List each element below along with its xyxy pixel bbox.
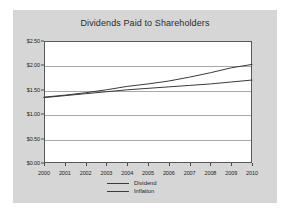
x-axis-tick [231, 163, 232, 166]
x-axis-label: 2006 [163, 170, 175, 176]
legend-item[interactable]: Inflation [107, 188, 183, 194]
x-axis-tick [169, 163, 170, 166]
x-axis-label: 2004 [121, 170, 133, 176]
x-axis-tick [252, 163, 253, 166]
y-axis-label: $0.50 [27, 136, 40, 142]
x-axis-label: 2009 [225, 170, 237, 176]
y-axis-label: $2.50 [27, 38, 40, 44]
x-axis-tick [106, 163, 107, 166]
x-axis-label: 2003 [100, 170, 112, 176]
x-axis-label: 2010 [246, 170, 258, 176]
legend-swatch-icon [107, 183, 129, 184]
x-axis-tick [86, 163, 87, 166]
chart-legend: DividendInflation [13, 180, 277, 194]
x-axis-label: 2005 [142, 170, 154, 176]
x-axis-tick [44, 163, 45, 166]
x-axis-label: 2000 [38, 170, 50, 176]
x-axis-label: 2001 [59, 170, 71, 176]
series-layer [44, 41, 252, 163]
y-axis-label: $2.00 [27, 62, 40, 68]
x-axis-label: 2007 [184, 170, 196, 176]
x-axis-tick [127, 163, 128, 166]
x-axis-tick [190, 163, 191, 166]
legend-label: Inflation [134, 188, 154, 194]
y-axis-label: $1.50 [27, 87, 40, 93]
legend-swatch-icon [107, 191, 129, 192]
chart-panel: Dividends Paid to Shareholders $0.00$0.5… [13, 10, 277, 203]
plot-wrapper: $0.00$0.50$1.00$1.50$2.00$2.50 200020012… [44, 41, 252, 163]
y-axis-label: $0.00 [27, 160, 40, 166]
legend-label: Dividend [134, 180, 157, 186]
series-line-inflation [44, 80, 252, 98]
x-axis-tick [148, 163, 149, 166]
y-axis-label: $1.00 [27, 111, 40, 117]
legend-item[interactable]: Dividend [107, 180, 183, 186]
x-axis-label: 2008 [204, 170, 216, 176]
x-axis-tick [210, 163, 211, 166]
series-line-dividend [44, 64, 252, 97]
chart-page: Dividends Paid to Shareholders $0.00$0.5… [0, 0, 291, 214]
chart-title: Dividends Paid to Shareholders [13, 18, 277, 28]
x-axis-tick [65, 163, 66, 166]
x-axis-label: 2002 [80, 170, 92, 176]
